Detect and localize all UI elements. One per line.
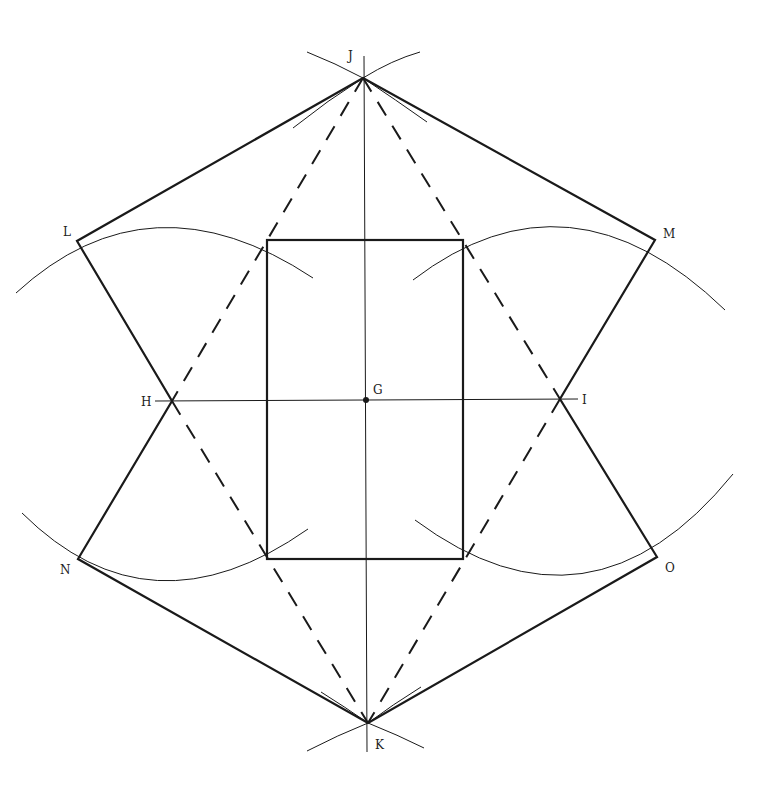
dashed-j-to-i — [363, 78, 560, 399]
center-point-g — [363, 397, 369, 403]
arc-k-left — [307, 723, 368, 751]
label-n: N — [60, 563, 71, 577]
label-m: M — [663, 227, 675, 241]
label-k: K — [375, 738, 385, 752]
label-o: O — [665, 561, 675, 575]
label-j: J — [346, 49, 353, 63]
arc-j-left — [307, 52, 363, 78]
label-h: H — [141, 395, 151, 409]
vertical-axis — [364, 56, 367, 752]
arc-j-right — [363, 52, 420, 78]
label-l: L — [63, 225, 71, 239]
label-g: G — [373, 383, 383, 397]
dashed-h-to-k — [172, 401, 368, 723]
arc-j-low-left — [293, 78, 363, 128]
label-i: I — [582, 393, 587, 407]
construction-diagram: J K L M N O H I G — [0, 0, 770, 799]
arc-j-low-right — [363, 78, 427, 122]
arc-upper-left — [16, 228, 313, 293]
